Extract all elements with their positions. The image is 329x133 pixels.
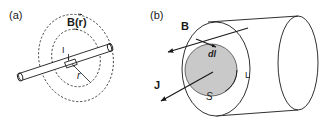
panel-a-label: (a) bbox=[9, 9, 22, 21]
panel-b-group: (b) B J dl L S bbox=[150, 9, 318, 116]
panel-b-boundary-label: L bbox=[245, 70, 250, 80]
panel-b-label: (b) bbox=[150, 9, 163, 21]
cylinder-top-edge bbox=[208, 16, 298, 22]
panel-a-group: (a) B(r) I r bbox=[9, 6, 123, 109]
panel-b-line-element-label: dl bbox=[208, 49, 216, 59]
panel-a-radius-label: r bbox=[77, 70, 81, 81]
field-loop-inner-direction-arrow bbox=[74, 29, 78, 30]
panel-a-field-label: B(r) bbox=[67, 16, 87, 28]
physics-figure: (a) B(r) I r bbox=[0, 0, 329, 133]
panel-b-field-vector-label: B bbox=[181, 20, 189, 32]
radius-line bbox=[73, 65, 91, 83]
figure-canvas: (a) B(r) I r bbox=[0, 0, 329, 133]
panel-b-surface-label: S bbox=[206, 91, 213, 102]
panel-b-current-density-label: J bbox=[154, 79, 160, 91]
panel-a-current-label: I bbox=[62, 45, 65, 55]
cylinder-far-cap bbox=[278, 16, 318, 110]
